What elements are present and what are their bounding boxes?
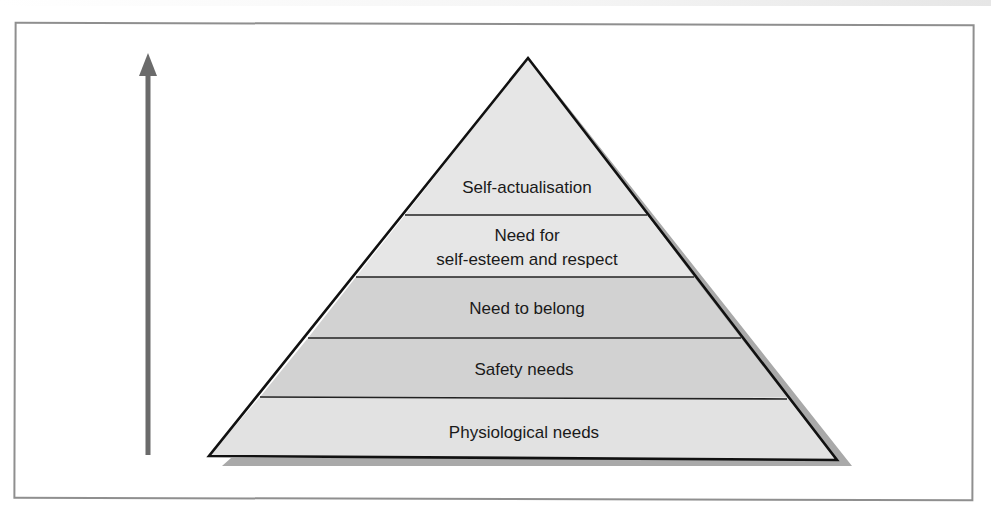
label-self-actualisation: Self-actualisation xyxy=(462,178,591,197)
up-arrow-icon xyxy=(139,53,157,455)
label-safety: Safety needs xyxy=(474,360,573,379)
label-physiological: Physiological needs xyxy=(449,423,599,442)
needs-pyramid-diagram: Self-actualisation Need for self-esteem … xyxy=(0,0,991,517)
label-belong: Need to belong xyxy=(469,299,584,318)
label-self-esteem-line1: Need for xyxy=(494,226,560,245)
label-self-esteem-line2: self-esteem and respect xyxy=(436,250,618,269)
